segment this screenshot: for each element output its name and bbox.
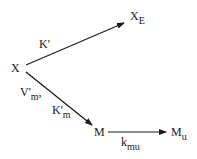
- k-prime-label: K': [39, 37, 50, 51]
- node-x-label: X: [11, 61, 20, 75]
- km-prime-subscript: m: [63, 109, 71, 120]
- edge-label-vm-prime: V'm,: [20, 86, 42, 99]
- edge-label-km-prime: K'm: [52, 104, 71, 117]
- node-m: M: [94, 126, 105, 138]
- node-xe: XE: [130, 10, 145, 23]
- node-xe-label: X: [130, 9, 139, 23]
- edge-label-k-prime: K': [39, 38, 50, 50]
- node-mu-subscript: u: [182, 131, 187, 142]
- vm-prime-comma: ,: [39, 85, 42, 99]
- node-m-label: M: [94, 125, 105, 139]
- node-mu: Mu: [171, 126, 187, 139]
- edge-label-kmu: kmu: [121, 136, 140, 149]
- node-mu-label: M: [171, 125, 182, 139]
- node-xe-subscript: E: [139, 15, 145, 26]
- kmu-subscript: mu: [127, 141, 140, 152]
- vm-prime-label: V': [20, 85, 31, 99]
- node-x: X: [11, 62, 20, 74]
- km-prime-label: K': [52, 103, 63, 117]
- vm-prime-subscript: m: [31, 91, 39, 102]
